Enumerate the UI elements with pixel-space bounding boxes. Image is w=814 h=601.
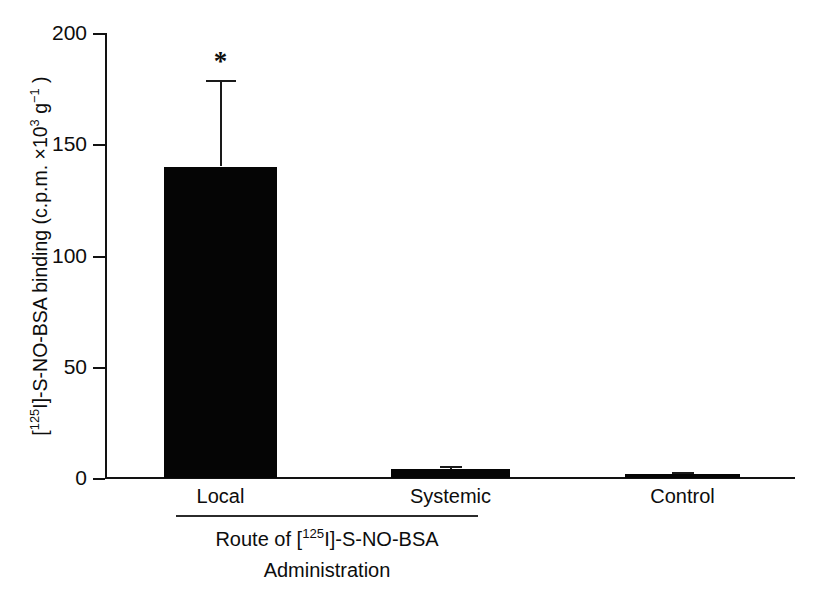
bar-chart-figure: [125I]-S-NO-BSA binding (c.p.m. ×103 g−1… [0,0,814,601]
x-axis-title-prefix: Route of [ [215,528,302,550]
y-axis-tick-label: 150 [31,133,87,154]
x-axis-category-label-control: Control [593,484,773,508]
y-axis-title-suffix: ) [29,76,51,88]
x-axis-title-rule [176,515,478,517]
y-axis-title-exponent-minus-one: −1 [27,88,42,103]
y-axis-title-isotope-superscript: 125 [27,409,42,430]
bar-local [164,167,277,479]
error-bar-cap-control [672,472,694,474]
y-axis-tick-label: 0 [31,467,87,488]
y-axis-title-gram: g [29,103,51,119]
y-axis-tick-label: 50 [31,356,87,377]
y-axis-tick-mark [93,367,105,369]
x-axis-title-isotope-superscript: 125 [302,526,324,541]
y-axis-tick-mark [93,144,105,146]
y-axis-tick-mark [93,478,105,480]
error-bar-stem-local [220,80,222,167]
y-axis-tick-mark [93,256,105,258]
y-axis-title-exponent-three: 3 [27,119,42,126]
x-axis-category-label-local: Local [131,484,311,508]
x-axis-title-line-1: Route of [125I]-S-NO-BSA [130,521,524,552]
y-axis-tick-label: 100 [31,245,87,266]
x-axis-title-suffix: I]-S-NO-BSA [324,528,438,550]
y-axis-tick-mark [93,33,105,35]
bar-systemic [391,469,510,478]
error-bar-cap-systemic [440,466,462,468]
y-axis-tick-label: 200 [31,22,87,43]
bar-control [625,474,740,478]
x-axis-title-line-2: Administration [130,557,524,583]
significance-asterisk-local: * [201,48,241,75]
error-bar-cap-local [206,80,236,82]
y-axis-line [105,33,107,479]
y-axis-title-prefix: [ [29,430,51,435]
x-axis-category-label-systemic: Systemic [361,484,541,508]
